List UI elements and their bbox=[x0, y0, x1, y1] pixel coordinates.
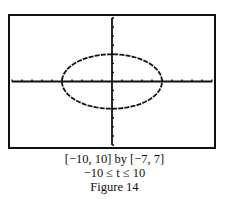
figure-caption: [−10, 10] by [−7, 7] −10 ≤ t ≤ 10 Figure… bbox=[0, 152, 229, 194]
viewing-window-text: [−10, 10] by [−7, 7] bbox=[0, 152, 229, 166]
plot-area bbox=[8, 14, 216, 149]
parameter-range-text: −10 ≤ t ≤ 10 bbox=[0, 166, 229, 180]
figure-label: Figure 14 bbox=[0, 180, 229, 194]
calculator-screen bbox=[8, 14, 216, 149]
